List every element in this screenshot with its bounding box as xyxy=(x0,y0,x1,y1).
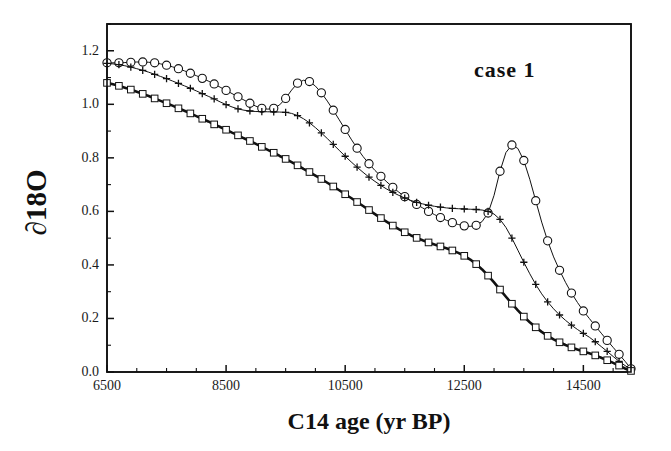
data-point-marker xyxy=(294,162,301,169)
y-tick-label: 0.6 xyxy=(45,203,99,219)
data-point-marker xyxy=(520,156,528,164)
series-line xyxy=(107,63,631,369)
data-point-marker xyxy=(604,357,611,364)
x-tick-label: 14500 xyxy=(566,378,601,394)
y-tick-label: 1.0 xyxy=(45,96,99,112)
data-point-marker xyxy=(175,105,182,112)
data-point-marker xyxy=(616,362,623,369)
data-point-marker xyxy=(317,89,325,97)
data-point-marker xyxy=(353,144,361,152)
data-point-marker xyxy=(199,115,206,122)
data-point-marker xyxy=(366,207,373,214)
data-point-marker xyxy=(544,333,551,340)
data-point-marker xyxy=(294,112,301,119)
data-point-marker xyxy=(365,160,373,168)
x-tick-label: 6500 xyxy=(93,378,121,394)
axes-group xyxy=(107,24,631,372)
plot-frame xyxy=(107,24,631,372)
data-point-marker xyxy=(139,91,146,98)
data-point-marker xyxy=(198,74,206,82)
data-point-marker xyxy=(222,101,229,108)
x-axis-label: C14 age (yr BP) xyxy=(107,408,631,435)
data-point-marker xyxy=(567,289,575,297)
data-point-marker xyxy=(210,80,218,88)
data-point-marker xyxy=(330,183,337,190)
data-point-marker xyxy=(390,222,397,229)
data-point-marker xyxy=(377,182,384,189)
x-tick-label: 10500 xyxy=(328,378,363,394)
data-point-marker xyxy=(139,67,146,74)
data-point-marker xyxy=(163,100,170,107)
data-point-marker xyxy=(222,86,230,94)
data-point-marker xyxy=(591,322,599,330)
data-point-marker xyxy=(175,80,182,87)
data-point-marker xyxy=(293,79,301,87)
data-point-marker xyxy=(187,110,194,117)
data-point-marker xyxy=(437,204,444,211)
data-point-marker xyxy=(521,313,528,320)
data-point-marker xyxy=(235,132,242,139)
data-point-marker xyxy=(174,65,182,73)
data-point-marker xyxy=(318,176,325,183)
data-point-marker xyxy=(151,95,158,102)
data-point-marker xyxy=(128,86,135,93)
data-point-marker xyxy=(282,109,289,116)
data-point-marker xyxy=(329,106,337,114)
chart-figure: ∂18O C14 age (yr BP) case 1 650085001050… xyxy=(0,0,671,451)
data-point-marker xyxy=(211,95,218,102)
y-tick-label: 0.0 xyxy=(45,364,99,380)
y-tick-label: 0.8 xyxy=(45,150,99,166)
data-point-marker xyxy=(568,344,575,351)
series-group xyxy=(103,24,635,374)
data-point-marker xyxy=(282,156,289,163)
series-line xyxy=(107,83,631,371)
data-point-marker xyxy=(377,172,385,180)
data-point-marker xyxy=(509,300,516,307)
data-point-marker xyxy=(461,253,468,260)
data-point-marker xyxy=(485,272,492,279)
data-point-marker xyxy=(556,339,563,346)
data-point-marker xyxy=(544,237,552,245)
data-point-marker xyxy=(460,222,468,230)
data-point-marker xyxy=(211,121,218,128)
case-annotation: case 1 xyxy=(474,57,536,83)
data-point-marker xyxy=(532,281,539,288)
data-point-marker xyxy=(508,235,515,242)
data-point-marker xyxy=(461,205,468,212)
data-point-marker xyxy=(448,219,456,227)
data-point-marker xyxy=(532,197,540,205)
data-point-marker xyxy=(187,85,194,92)
data-point-marker xyxy=(532,324,539,331)
data-point-marker xyxy=(449,247,456,254)
x-tick-label: 8500 xyxy=(212,378,240,394)
data-point-marker xyxy=(496,167,504,175)
data-point-marker xyxy=(555,266,563,274)
data-point-marker xyxy=(436,213,444,221)
data-point-marker xyxy=(473,261,480,268)
data-point-marker xyxy=(378,215,385,222)
data-point-marker xyxy=(151,71,158,78)
data-point-marker xyxy=(341,125,349,133)
data-point-marker xyxy=(282,94,290,102)
data-point-marker xyxy=(151,59,159,67)
data-point-marker xyxy=(401,229,408,236)
series-circles xyxy=(103,58,635,373)
data-point-marker xyxy=(306,169,313,176)
data-point-marker xyxy=(425,239,432,246)
data-point-marker xyxy=(437,243,444,250)
data-point-marker xyxy=(186,69,194,77)
data-point-marker xyxy=(270,149,277,156)
data-point-marker xyxy=(162,61,170,69)
data-point-marker xyxy=(579,307,587,315)
data-point-marker xyxy=(139,58,147,66)
x-tick-label: 12500 xyxy=(447,378,482,394)
data-point-marker xyxy=(580,330,587,337)
series-crosses xyxy=(103,60,634,373)
data-point-marker xyxy=(305,77,313,85)
plot-frame-overlay xyxy=(107,24,631,372)
data-point-marker xyxy=(615,350,623,358)
series-squares xyxy=(104,80,635,375)
data-point-marker xyxy=(234,93,242,101)
data-point-marker xyxy=(259,144,266,151)
data-point-marker xyxy=(234,105,241,112)
